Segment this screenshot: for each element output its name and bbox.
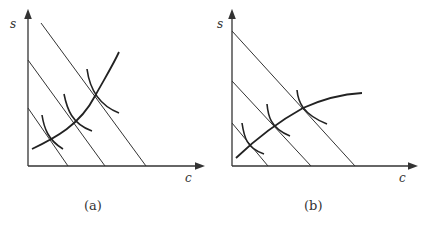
panel-b-x-axis-label: c bbox=[399, 171, 406, 185]
panel-a-indifference-curve-3 bbox=[87, 69, 119, 113]
panel-b-caption: (b) bbox=[304, 198, 322, 213]
diagram-canvas bbox=[0, 0, 427, 226]
panel-a-budget-line-1 bbox=[28, 108, 68, 166]
panel-a-x-axis-label: c bbox=[185, 171, 192, 185]
panel-a-caption: (a) bbox=[84, 198, 102, 213]
panel-b-expansion-path bbox=[236, 93, 362, 158]
panel-b-budget-line-2 bbox=[232, 81, 311, 166]
panel-a-indifference-curve-2 bbox=[64, 94, 92, 131]
panel-a-y-axis-label: s bbox=[10, 17, 16, 31]
panel-b-y-axis-label: s bbox=[217, 17, 223, 31]
panel-a-expansion-path bbox=[32, 52, 119, 149]
panel-a-budget-line-2 bbox=[28, 60, 105, 166]
panel-a bbox=[28, 14, 200, 166]
panel-b bbox=[232, 14, 413, 166]
